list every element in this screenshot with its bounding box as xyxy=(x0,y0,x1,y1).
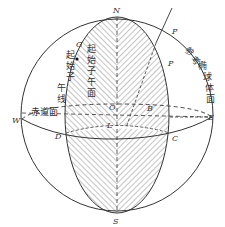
label-g: G xyxy=(76,40,83,49)
svg-text:起: 起 xyxy=(87,44,96,54)
svg-text:面: 面 xyxy=(206,94,215,104)
geodetic-coordinate-diagram: N S W E O L B G D C P P 起 始 子 午 线 起 始 子 … xyxy=(0,0,225,227)
svg-text:午: 午 xyxy=(57,82,66,93)
label-p-inner: P xyxy=(167,59,174,68)
label-l: L xyxy=(106,121,112,130)
label-prime-meridian-plane: 起 始 子 午 面 xyxy=(87,44,96,98)
svg-text:子: 子 xyxy=(87,66,96,76)
svg-text:椭: 椭 xyxy=(198,60,207,71)
normal-line-p xyxy=(156,8,172,43)
svg-text:起: 起 xyxy=(66,50,75,60)
label-b: B xyxy=(146,104,153,113)
svg-text:体: 体 xyxy=(205,82,214,93)
label-e: E xyxy=(207,113,214,122)
label-c: C xyxy=(172,134,178,143)
svg-text:线: 线 xyxy=(57,93,66,104)
label-s: S xyxy=(113,217,119,226)
svg-text:子: 子 xyxy=(66,72,75,82)
point-g-marker xyxy=(75,57,78,60)
label-reference-ellipsoid: 参 考 椭 球 体 面 xyxy=(183,44,215,104)
svg-text:面: 面 xyxy=(87,88,96,98)
label-n: N xyxy=(112,6,121,15)
label-d: D xyxy=(54,132,62,141)
svg-text:球: 球 xyxy=(203,71,212,82)
label-w: W xyxy=(12,116,21,125)
label-p-outer: P xyxy=(171,27,178,36)
svg-text:始: 始 xyxy=(66,60,75,71)
svg-text:午: 午 xyxy=(87,76,96,87)
svg-text:始: 始 xyxy=(87,54,96,65)
label-equator-plane: 赤道面 xyxy=(31,106,58,117)
label-o: O xyxy=(109,103,116,112)
